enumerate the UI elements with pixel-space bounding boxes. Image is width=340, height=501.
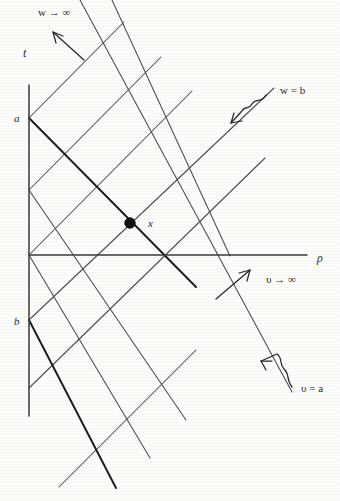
v-to-infinity-label: υ → ∞ [266, 273, 296, 285]
v-equals-a-arrow [261, 354, 292, 387]
down-line-2 [29, 190, 186, 420]
bold-null-rays [29, 118, 196, 488]
up-line-5 [29, 158, 265, 388]
w-infinity-arrow [53, 32, 84, 60]
point-b-label: b [14, 315, 20, 327]
up-line-4 [29, 88, 274, 320]
labels: t ρ a b x w → ∞ υ → ∞ w = b υ = a [14, 6, 323, 394]
up-line-1 [29, 22, 124, 118]
up-line-3 [29, 91, 192, 255]
spacetime-diagram: t ρ a b x w → ∞ υ → ∞ w = b υ = a [0, 0, 340, 501]
down-going-null-lines [29, 0, 292, 488]
rho-axis-label: ρ [316, 251, 323, 265]
v-equals-a-label: υ = a [301, 382, 323, 394]
event-point-x [125, 218, 135, 228]
event-x-label: x [147, 217, 153, 229]
pointer-arrows [53, 32, 292, 387]
w-to-infinity-label: w → ∞ [38, 6, 70, 18]
figure-page: t ρ a b x w → ∞ υ → ∞ w = b υ = a [0, 0, 340, 501]
v-infinity-arrow [216, 270, 250, 299]
bold-ray-from-a [29, 118, 196, 287]
w-equals-b-arrow [231, 95, 266, 123]
point-a-label: a [14, 112, 20, 124]
w-equals-b-label: w = b [280, 84, 306, 96]
t-axis-label: t [23, 46, 27, 60]
down-line-5 [80, 0, 292, 392]
up-line-2 [29, 57, 161, 190]
